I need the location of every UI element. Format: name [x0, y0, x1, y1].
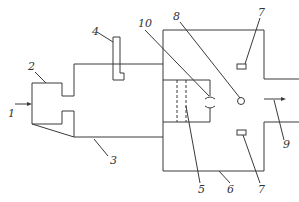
nozzle	[205, 97, 215, 108]
label-5: 5	[198, 183, 205, 196]
electrode-bottom	[237, 130, 246, 135]
label-1: 1	[8, 107, 15, 120]
label-7-bottom: 7	[258, 183, 265, 196]
label-8: 8	[173, 10, 180, 23]
valve-part	[113, 37, 124, 80]
electrode-top	[237, 64, 246, 69]
label-4: 4	[91, 25, 99, 38]
label-2: 2	[27, 60, 35, 73]
sensor-ball	[238, 98, 245, 105]
apparatus-diagram: 1 2 3 4 5 6 7 7 8 9 10	[0, 0, 299, 202]
leader-lines	[35, 18, 284, 183]
inlet-arrow	[15, 102, 32, 106]
main-chamber	[163, 30, 299, 171]
outlet-arrow	[264, 97, 286, 101]
label-3: 3	[110, 154, 117, 167]
label-10: 10	[138, 17, 152, 30]
label-6: 6	[227, 183, 234, 196]
inlet-chamber	[32, 64, 163, 137]
label-9: 9	[283, 138, 290, 151]
label-7-top: 7	[258, 6, 265, 19]
